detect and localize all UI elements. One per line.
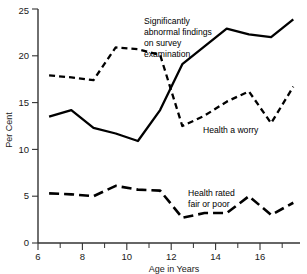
y-tick-label: 15 <box>18 97 29 108</box>
series-line-health-rated-fair-or-poor <box>49 186 293 218</box>
annotation-line: Significantly <box>144 16 191 26</box>
y-tick-marks <box>32 9 38 243</box>
x-tick-label: 6 <box>35 251 40 262</box>
x-tick-label: 12 <box>166 251 177 262</box>
chart-container: 0 5 10 15 20 25 6 8 10 12 <box>0 0 307 274</box>
y-axis-title: Per Cent <box>4 112 14 148</box>
x-tick-label: 8 <box>80 251 85 262</box>
y-tick-label: 20 <box>18 50 29 61</box>
annotation-health-fair-or-poor: Health rated fair or poor <box>188 188 235 209</box>
annotation-line: Health rated <box>188 188 235 198</box>
x-tick-label: 16 <box>255 251 266 262</box>
annotation-survey-findings: Significantly abnormal findings on surve… <box>144 16 212 59</box>
y-tick-label: 5 <box>24 190 29 201</box>
annotation-health-a-worry: Health a worry <box>203 125 259 135</box>
y-tick-labels: 0 5 10 15 20 25 <box>18 5 29 248</box>
x-axis-title: Age in Years <box>149 264 200 274</box>
x-tick-labels: 6 8 10 12 14 16 <box>35 251 265 262</box>
x-tick-label: 14 <box>210 251 221 262</box>
x-tick-label: 10 <box>122 251 133 262</box>
annotation-line: examination <box>144 49 191 59</box>
annotation-line: on survey <box>144 38 182 48</box>
series-line-health-a-worry <box>49 47 293 126</box>
annotation-line: abnormal findings <box>144 27 212 37</box>
y-tick-label: 25 <box>18 5 29 16</box>
annotation-line: Health a worry <box>203 125 259 135</box>
y-tick-label: 10 <box>18 144 29 155</box>
line-chart: 0 5 10 15 20 25 6 8 10 12 <box>0 0 307 274</box>
x-tick-marks <box>38 243 282 250</box>
annotation-line: fair or poor <box>188 199 230 209</box>
y-tick-label: 0 <box>24 237 29 248</box>
